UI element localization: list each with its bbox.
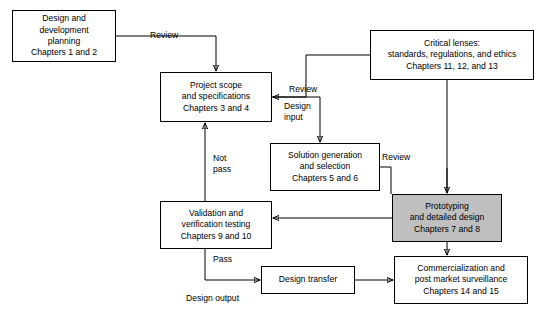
node-line: Validation and: [189, 208, 243, 219]
node-line: Chapters 7 and 8: [414, 224, 480, 235]
node-line: and specifications: [182, 91, 250, 102]
node-line: and selection: [300, 161, 351, 172]
node-solution-generation-selection: Solution generationand selectionChapters…: [270, 143, 380, 191]
edge-label-design-output: Design output: [186, 293, 239, 304]
node-line: post market surveillance: [415, 274, 508, 285]
node-line: Chapters 11, 12, and 13: [406, 61, 498, 72]
node-line: Chapters 3 and 4: [183, 103, 249, 114]
node-line: Design transfer: [279, 274, 337, 285]
node-commercialization-post-market: Commercialization andpost market surveil…: [394, 256, 528, 304]
node-line: Chapters 5 and 6: [292, 173, 358, 184]
node-design-development-planning: Design anddevelopmentplanningChapters 1 …: [12, 10, 116, 62]
edge-label-review-critical-lenses-left: Review: [289, 84, 317, 95]
edge-lenses-to-scope: [273, 55, 370, 97]
node-line: Project scope: [190, 80, 242, 91]
node-line: verification testing: [182, 219, 251, 230]
node-line: Critical lenses:: [424, 38, 480, 49]
edge-label-design-input: Design input: [284, 101, 311, 122]
node-line: development: [39, 25, 88, 36]
node-line: planning: [48, 36, 81, 47]
node-line: Chapters 14 and 15: [423, 286, 499, 297]
node-design-transfer: Design transfer: [261, 266, 355, 294]
edge-label-review-prototyping: Review: [382, 152, 410, 163]
node-line: Chapters 1 and 2: [31, 47, 97, 58]
edge-solution-to-prototyping-1: [380, 167, 391, 194]
flowchart-canvas: Design anddevelopmentplanningChapters 1 …: [0, 0, 545, 314]
edge-label-pass: Pass: [213, 254, 232, 265]
node-line: Design and: [42, 13, 85, 24]
node-critical-lenses: Critical lenses:standards, regulations, …: [370, 30, 534, 80]
edge-label-review-top: Review: [150, 30, 178, 41]
node-prototyping-detailed-design: Prototypingand detailed designChapters 7…: [392, 194, 502, 242]
node-line: Prototyping: [425, 201, 468, 212]
node-validation-verification-testing: Validation andverification testingChapte…: [160, 201, 272, 249]
node-line: Solution generation: [288, 150, 362, 161]
node-line: and detailed design: [410, 212, 485, 223]
edge-planning-to-scope: [116, 36, 216, 71]
edge-label-not-pass: Not pass: [213, 153, 231, 174]
node-project-scope-specifications: Project scopeand specificationsChapters …: [160, 72, 272, 122]
node-line: standards, regulations, and ethics: [388, 49, 517, 60]
node-line: Chapters 9 and 10: [181, 231, 252, 242]
node-line: Commercialization and: [417, 263, 504, 274]
